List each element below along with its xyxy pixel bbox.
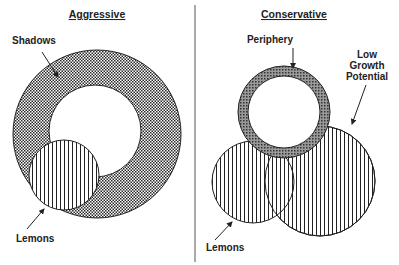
periphery-label: Periphery: [247, 34, 294, 45]
diagram-canvas: Aggressive Shadows Lemons Conservative P…: [0, 0, 399, 265]
periphery-inner-hole: [248, 76, 320, 148]
aggressive-title: Aggressive: [69, 8, 126, 20]
aggressive-lemons-arrow-icon: [27, 209, 44, 229]
conservative-panel: Conservative Periphery Low Growth Potent…: [206, 8, 388, 253]
conservative-lemons-label: Lemons: [206, 242, 245, 253]
low-growth-label-line2: Growth: [350, 60, 385, 71]
aggressive-lemons-circle: [29, 140, 99, 210]
aggressive-lemons-label: Lemons: [16, 233, 55, 244]
shadows-label: Shadows: [12, 35, 56, 46]
low-growth-label-line1: Low: [357, 49, 377, 60]
low-growth-label-line3: Potential: [346, 71, 388, 82]
conservative-lemons-arrow-icon: [215, 222, 232, 240]
aggressive-panel: Aggressive Shadows Lemons: [12, 8, 181, 244]
conservative-title: Conservative: [261, 8, 327, 20]
low-growth-arrow-icon: [352, 85, 366, 124]
